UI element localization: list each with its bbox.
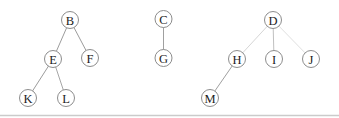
node-label-B: B [66, 14, 74, 28]
tree-node-H: H [229, 51, 246, 68]
node-label-G: G [159, 52, 168, 66]
node-label-L: L [62, 92, 70, 106]
node-label-M: M [204, 92, 215, 106]
tree-node-D: D [265, 12, 282, 29]
tree-node-F: F [82, 50, 99, 67]
tree-node-G: G [155, 50, 172, 67]
node-label-D: D [268, 14, 277, 28]
tree-node-E: E [45, 51, 62, 68]
tree-node-C: C [155, 11, 172, 28]
tree-node-I: I [266, 51, 283, 68]
forest-diagram-stage: BEFKLCGDHIJM [0, 0, 339, 118]
tree-node-K: K [20, 90, 37, 107]
tree-node-B: B [62, 12, 79, 29]
node-label-I: I [272, 53, 276, 67]
tree-node-J: J [303, 51, 320, 68]
node-label-C: C [159, 13, 167, 27]
tree-node-M: M [202, 90, 219, 107]
node-label-H: H [232, 53, 241, 67]
tree-node-L: L [58, 90, 75, 107]
node-label-J: J [309, 53, 314, 67]
node-label-F: F [87, 52, 94, 66]
forest-diagram: BEFKLCGDHIJM [0, 0, 339, 118]
node-label-E: E [49, 53, 57, 67]
node-label-K: K [23, 92, 32, 106]
